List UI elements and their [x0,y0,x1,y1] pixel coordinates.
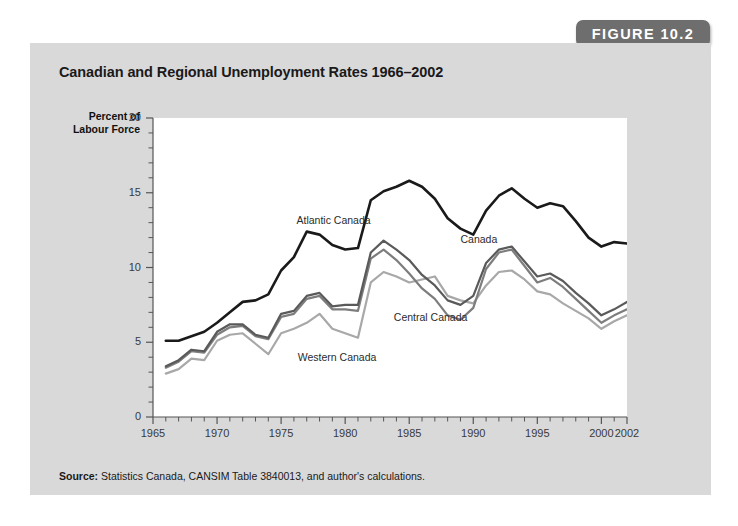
x-tick-label-2002: 2002 [607,427,647,439]
x-tick-label-1980: 1980 [325,427,365,439]
series-label-western-canada: Western Canada [298,351,377,363]
y-tick-label-10: 10 [111,261,141,273]
series-label-atlantic-canada: Atlantic Canada [296,214,370,226]
y-tick-label-5: 5 [111,335,141,347]
y-tick-label-15: 15 [111,186,141,198]
y-axis-title-line2: Labour Force [60,123,140,136]
figure-container: FIGURE 10.2 Canadian and Regional Unempl… [0,0,738,526]
series-label-central-canada: Central Canada [394,311,468,323]
x-tick-label-1990: 1990 [453,427,493,439]
x-tick-label-1965: 1965 [133,427,173,439]
figure-number-label: FIGURE 10.2 [592,26,694,42]
x-tick-label-1975: 1975 [261,427,301,439]
series-label-canada: Canada [460,233,497,245]
y-tick-label-20: 20 [111,111,141,123]
x-tick-label-1970: 1970 [197,427,237,439]
chart-title: Canadian and Regional Unemployment Rates… [59,64,443,80]
y-tick-label-0: 0 [111,410,141,422]
source-note: Source: Statistics Canada, CANSIM Table … [59,470,425,482]
source-text: Statistics Canada, CANSIM Table 3840013,… [98,470,425,482]
x-tick-label-1995: 1995 [517,427,557,439]
axis-canvas [140,108,650,438]
source-label: Source: [59,470,98,482]
x-tick-label-1985: 1985 [389,427,429,439]
